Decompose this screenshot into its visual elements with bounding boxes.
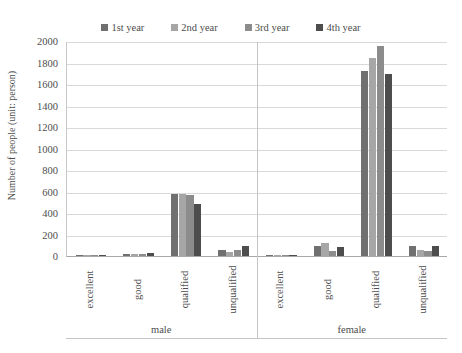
x-axis-group-label: female xyxy=(257,324,448,335)
bar xyxy=(432,246,439,256)
x-axis-category-label-text: qualified xyxy=(180,271,191,308)
bar xyxy=(123,254,130,256)
bar xyxy=(409,246,416,256)
legend-label: 3rd year xyxy=(255,22,290,33)
legend-label: 4th year xyxy=(326,22,360,33)
y-axis-tick-label: 800 xyxy=(42,166,58,176)
x-axis-category-labels: excellentgoodqualifiedunqualifiedexcelle… xyxy=(66,258,447,320)
bar xyxy=(369,58,376,256)
bar xyxy=(234,250,241,256)
y-axis-tick-label: 400 xyxy=(42,209,58,219)
bottom-rule xyxy=(66,338,447,339)
legend-swatch-icon xyxy=(245,24,252,31)
bar-cluster xyxy=(67,42,115,256)
legend-item: 3rd year xyxy=(245,22,290,33)
x-axis-category-label-text: unqualified xyxy=(418,266,429,314)
legend-item: 1st year xyxy=(101,22,144,33)
bar xyxy=(282,255,289,256)
y-axis-tick-label: 2000 xyxy=(37,37,58,47)
y-axis-tick-label: 1600 xyxy=(37,80,58,90)
bar xyxy=(266,255,273,256)
x-axis-category-label-text: good xyxy=(132,279,143,300)
y-axis-tick-label: 600 xyxy=(42,188,58,198)
bar xyxy=(194,204,201,256)
legend-label: 1st year xyxy=(111,22,144,33)
y-axis-tick-label: 200 xyxy=(42,231,58,241)
bar-cluster xyxy=(162,42,210,256)
x-axis-group-label: male xyxy=(66,324,257,335)
x-axis-category-label-text: excellent xyxy=(275,271,286,309)
bar xyxy=(147,253,154,256)
bar xyxy=(329,251,336,256)
bar xyxy=(385,74,392,256)
legend-swatch-icon xyxy=(171,24,178,31)
bar xyxy=(377,46,384,256)
y-axis-title-label: Number of people (unit: person) xyxy=(7,70,18,199)
x-axis-category-label-text: good xyxy=(322,279,333,300)
x-axis-category-label-text: unqualified xyxy=(227,266,238,314)
bar xyxy=(337,247,344,256)
bar xyxy=(91,255,98,256)
legend-swatch-icon xyxy=(316,24,323,31)
bar xyxy=(131,254,138,256)
bar xyxy=(424,251,431,256)
bar xyxy=(417,250,424,256)
bar xyxy=(242,246,249,256)
legend-item: 2nd year xyxy=(171,22,217,33)
legend-label: 2nd year xyxy=(181,22,217,33)
bar-cluster xyxy=(210,42,258,256)
bar xyxy=(179,194,186,256)
y-axis-tick-label: 1800 xyxy=(37,59,58,69)
bar xyxy=(99,255,106,256)
bar xyxy=(226,252,233,256)
bar xyxy=(171,194,178,256)
bar xyxy=(218,250,225,256)
bar xyxy=(274,255,281,256)
bar-cluster xyxy=(353,42,401,256)
bar xyxy=(76,255,83,256)
x-axis-category-label-text: qualified xyxy=(370,271,381,308)
y-axis-tick-label: 1000 xyxy=(37,145,58,155)
y-axis-title: Number of people (unit: person) xyxy=(2,0,22,270)
legend-swatch-icon xyxy=(101,24,108,31)
bar xyxy=(83,255,90,256)
bar xyxy=(361,71,368,256)
bar xyxy=(139,254,146,256)
y-axis-tick-label: 1400 xyxy=(37,102,58,112)
bar-cluster xyxy=(305,42,353,256)
bar xyxy=(321,243,328,256)
x-axis-category-label-text: excellent xyxy=(84,271,95,309)
bar-chart: 1st year2nd year3rd year4th year Number … xyxy=(0,0,462,353)
legend-item: 4th year xyxy=(316,22,360,33)
bar xyxy=(186,195,193,256)
bar-cluster xyxy=(258,42,306,256)
y-axis-tick-label: 1200 xyxy=(37,123,58,133)
bar-cluster xyxy=(400,42,448,256)
bar-cluster xyxy=(115,42,163,256)
chart-legend: 1st year2nd year3rd year4th year xyxy=(0,19,462,35)
bar xyxy=(314,246,321,256)
x-axis-category-label: unqualified xyxy=(392,258,454,320)
bar xyxy=(289,255,296,256)
y-axis-tick-label: 0 xyxy=(53,252,58,262)
y-axis-tick-labels: 2000180016001400120010008006004002000 xyxy=(24,42,62,257)
